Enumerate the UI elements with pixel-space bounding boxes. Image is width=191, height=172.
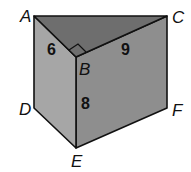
measure-bc: 9 <box>121 41 130 58</box>
vertex-label-d: D <box>19 100 31 119</box>
vertex-label-e: E <box>71 152 83 171</box>
measure-be: 8 <box>81 95 90 112</box>
measure-ab: 6 <box>47 41 56 58</box>
vertex-label-c: C <box>172 8 185 27</box>
vertex-label-b: B <box>79 60 90 79</box>
vertex-label-a: A <box>19 7 31 26</box>
vertex-label-f: F <box>172 101 184 120</box>
prism-diagram: A C B D F E 6 9 8 <box>0 0 191 172</box>
